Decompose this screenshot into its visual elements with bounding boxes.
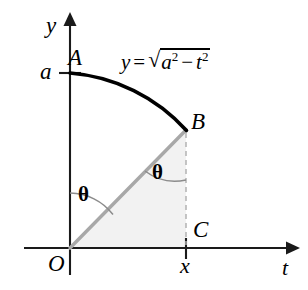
point-b-label: B [191, 110, 205, 133]
curve-equation-label: y= √ a2−t2 [121, 48, 210, 75]
radical-vinculum [160, 48, 210, 50]
figure-canvas [0, 0, 308, 290]
y-tick-label-a: a [40, 60, 52, 83]
radicand: a2−t2 [161, 48, 208, 75]
equation-lhs: y [121, 50, 130, 74]
y-axis-label: y [46, 14, 56, 37]
point-a-label: A [68, 46, 82, 69]
point-o-label: O [48, 252, 65, 275]
theta-label-origin: θ [78, 184, 89, 205]
radicand-operator: − [178, 50, 196, 74]
t-axis-arrowhead [286, 242, 300, 255]
radical-expression: √ a2−t2 [148, 48, 210, 75]
equation-relation: = [130, 50, 148, 74]
point-c-label: C [193, 218, 208, 241]
radicand-term-1: a [161, 50, 172, 74]
curve-arc-ab [70, 73, 187, 131]
geometry-figure: y t A B C O a x θ θ y= √ a2−t2 [0, 0, 308, 290]
t-tick-label-x: x [180, 255, 190, 277]
radical-sign-icon: √ [148, 47, 160, 73]
t-axis-label: t [282, 257, 288, 279]
theta-label-at-b: θ [152, 162, 163, 183]
y-axis-arrowhead [64, 12, 77, 26]
radicand-term-2-exponent: 2 [202, 49, 209, 64]
